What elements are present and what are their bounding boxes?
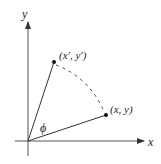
point-rotated-dot [52, 60, 56, 64]
point-original-dot [104, 113, 108, 117]
rotation-diagram: y x (x′, y′) (x, y) ϕ [0, 0, 161, 164]
x-axis-label: x [147, 135, 154, 149]
angle-phi-label: ϕ [40, 121, 46, 135]
rotation-arc [56, 65, 104, 112]
y-axis-label: y [21, 7, 28, 21]
point-original-label: (x, y) [110, 103, 133, 116]
point-rotated-label: (x′, y′) [59, 49, 87, 62]
diagram-svg: y x (x′, y′) (x, y) ϕ [0, 0, 161, 164]
